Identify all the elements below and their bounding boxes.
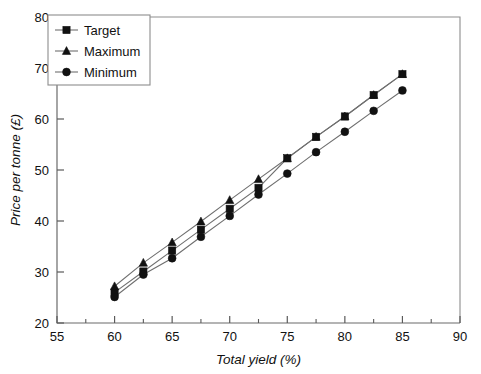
y-tick-label: 60 [35, 112, 49, 127]
data-point-minimum [399, 87, 407, 95]
x-tick-label: 90 [453, 329, 467, 344]
data-point-minimum [283, 170, 291, 178]
x-tick-label: 80 [338, 329, 352, 344]
data-point-minimum [139, 271, 147, 279]
data-point-minimum [255, 191, 263, 199]
price-per-tonne-vs-total-yield-chart: 556065707580859020304050607080Total yiel… [0, 0, 481, 374]
x-axis-title: Total yield (%) [216, 352, 301, 367]
y-tick-label: 80 [35, 10, 49, 25]
y-tick-label: 30 [35, 265, 49, 280]
legend-marker-minimum [63, 68, 71, 76]
y-tick-label: 70 [35, 61, 49, 76]
y-axis-title: Price per tonne (£) [8, 114, 23, 226]
data-point-minimum [370, 107, 378, 115]
data-point-target [197, 226, 204, 233]
x-tick-label: 65 [165, 329, 179, 344]
y-tick-label: 40 [35, 214, 49, 229]
data-point-target [169, 247, 176, 254]
data-point-minimum [341, 128, 349, 136]
data-point-target [226, 205, 233, 212]
x-tick-label: 55 [50, 329, 64, 344]
data-point-maximum [226, 196, 234, 204]
data-point-maximum [139, 258, 147, 266]
data-point-minimum [197, 233, 205, 241]
legend-label-target: Target [84, 23, 121, 38]
x-tick-label: 60 [107, 329, 121, 344]
legend-marker-target [63, 26, 70, 33]
data-point-minimum [312, 148, 320, 156]
x-tick-label: 70 [222, 329, 236, 344]
data-point-maximum [254, 175, 262, 183]
y-tick-label: 20 [35, 316, 49, 331]
chart-figure: 556065707580859020304050607080Total yiel… [0, 0, 481, 374]
y-tick-label: 50 [35, 163, 49, 178]
data-point-minimum [168, 254, 176, 262]
data-point-maximum [110, 282, 118, 290]
x-tick-label: 75 [280, 329, 294, 344]
series-line-target [115, 74, 403, 292]
data-point-maximum [168, 238, 176, 246]
x-tick-label: 85 [395, 329, 409, 344]
data-point-maximum [197, 217, 205, 225]
data-point-minimum [226, 212, 234, 220]
data-point-minimum [111, 293, 119, 301]
legend-label-minimum: Minimum [84, 65, 137, 80]
legend-label-maximum: Maximum [84, 44, 140, 59]
